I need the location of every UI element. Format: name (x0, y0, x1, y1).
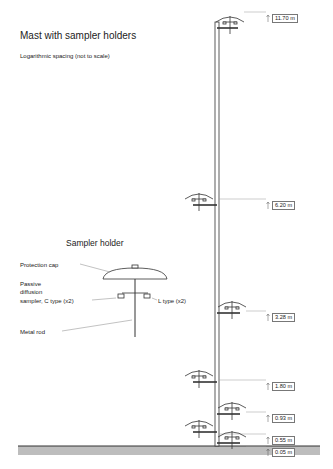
height-label: 0.55 m (272, 436, 295, 445)
height-label: 11.70 m (272, 14, 298, 23)
mast-sampler-holder (185, 370, 217, 388)
height-label: 0.93 m (272, 414, 295, 423)
mast-sampler-holder (216, 16, 244, 34)
mast-sampler-holder (217, 301, 246, 319)
up-arrow-icon (267, 314, 270, 321)
up-arrow-icon (267, 202, 270, 209)
sampler-holder-detail (62, 264, 167, 337)
up-arrow-icon (267, 383, 270, 390)
height-label: 1.80 m (272, 382, 295, 391)
protection-cap-shape (103, 268, 167, 279)
mast-sampler-holder (217, 402, 246, 420)
mast-sampler-holder (185, 420, 217, 438)
mast-diagram (0, 0, 333, 469)
height-label: 0.05 m (272, 448, 295, 457)
up-arrow-icon (267, 15, 270, 22)
height-label: 3.28 m (272, 313, 295, 322)
mast-sampler-holder (185, 193, 217, 211)
height-label: 6.20 m (272, 201, 295, 210)
up-arrow-icon (267, 415, 270, 422)
up-arrow-icon (267, 437, 270, 444)
